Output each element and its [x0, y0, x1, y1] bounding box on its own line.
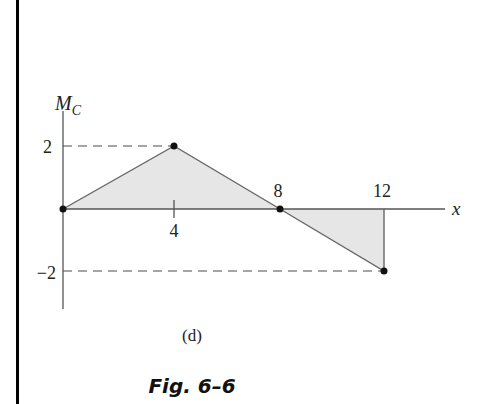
- positive-moment-area: [63, 146, 280, 209]
- x-tick-label-12: 12: [373, 181, 391, 201]
- figure-caption: Fig. 6–6: [0, 374, 436, 398]
- point-origin: [60, 206, 67, 213]
- point-zero-crossing: [277, 206, 284, 213]
- x-tick-label-8: 8: [274, 181, 283, 201]
- point-peak: [171, 143, 178, 150]
- y-tick-label-2: 2: [43, 137, 52, 157]
- point-minimum: [381, 268, 388, 275]
- subfigure-label: (d): [0, 326, 436, 346]
- x-tick-label-4: 4: [170, 221, 179, 241]
- y-axis-label: MC: [54, 92, 82, 118]
- x-axis-label: x: [451, 198, 461, 219]
- y-tick-label-neg2: −2: [37, 263, 56, 283]
